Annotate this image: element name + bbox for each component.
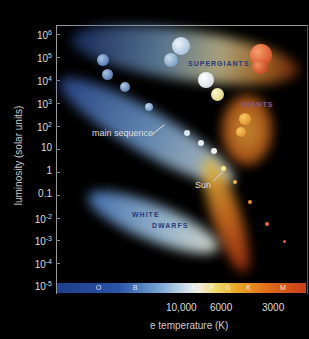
y-tickmark (56, 172, 60, 173)
star (265, 222, 269, 226)
y-tickmark (56, 195, 60, 196)
main-sequence-annotation: main sequence (92, 128, 153, 138)
star (283, 240, 286, 243)
spectral-class-b: B (133, 284, 138, 291)
y-tick: 10-4 (0, 257, 52, 270)
y-tick: 10 (0, 143, 52, 153)
spectral-class-m: M (280, 284, 286, 291)
y-tick: 106 (0, 28, 52, 41)
spectral-class-bar (57, 283, 306, 293)
star (233, 180, 237, 184)
spectral-class-f: F (210, 284, 214, 291)
y-tick: 10-2 (0, 212, 52, 225)
star (102, 69, 113, 80)
star (184, 130, 190, 136)
y-tick: 10-5 (0, 279, 52, 292)
y-tick: 103 (0, 97, 52, 110)
y-tick: 0.1 (0, 189, 52, 199)
giants-label: GIANTS (241, 101, 273, 108)
star (145, 103, 153, 111)
white-dwarfs-label-line1: WHITE (132, 211, 160, 218)
y-tickmark (56, 34, 60, 35)
star (236, 127, 246, 137)
y-tick: 105 (0, 51, 52, 64)
star (172, 37, 190, 55)
x-axis-label: e temperature (K) (150, 320, 228, 331)
spectral-class-a: A (191, 284, 196, 291)
star (211, 148, 217, 154)
star (211, 88, 224, 101)
star (198, 140, 204, 146)
y-tickmark (56, 57, 60, 58)
y-tickmark (56, 218, 60, 219)
star (248, 200, 252, 204)
x-tick: 10,000 (166, 302, 197, 313)
y-tick: 1 (0, 166, 52, 176)
y-axis-label: luminosity (solar units) (13, 91, 24, 221)
y-tickmark (56, 149, 60, 150)
y-tickmark (56, 263, 60, 264)
y-tickmark (56, 126, 60, 127)
y-tick: 10-3 (0, 234, 52, 247)
star (97, 54, 109, 66)
star (239, 113, 251, 125)
spectral-class-o: O (96, 284, 101, 291)
spectral-class-k: K (246, 284, 251, 291)
white-dwarfs-label-line2: DWARFS (152, 222, 188, 229)
sun-annotation: Sun (195, 180, 211, 190)
star (164, 53, 178, 67)
y-tickmark (56, 240, 60, 241)
supergiants-label: SUPERGIANTS (188, 60, 250, 67)
y-tick: 102 (0, 120, 52, 133)
star (120, 82, 130, 92)
y-tickmark (56, 103, 60, 104)
spectral-class-g: G (225, 284, 230, 291)
x-tick: 6000 (210, 302, 232, 313)
star (252, 60, 268, 74)
x-tick: 3000 (262, 302, 284, 313)
star (198, 72, 214, 88)
y-tick: 104 (0, 74, 52, 87)
